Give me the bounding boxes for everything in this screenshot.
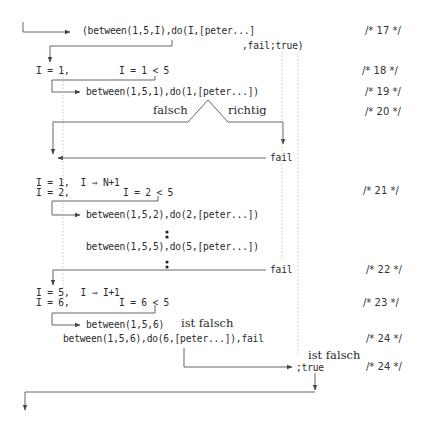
fail-22: fail	[270, 265, 292, 275]
assign-i2: I = 2,	[36, 188, 69, 198]
comment-18: /* 18 */	[362, 66, 398, 76]
ist-falsch-label-1: ist falsch	[181, 318, 233, 330]
branch-true-label: richtig	[228, 105, 267, 117]
assign-i1: I = 1,	[36, 66, 69, 76]
fail-20: fail	[270, 153, 292, 163]
call-between-1: between(1,5,1),do(1,[peter...])	[86, 87, 259, 97]
semicolon-true: ;true	[296, 363, 324, 373]
ist-falsch-label-2: ist falsch	[308, 350, 360, 362]
comment-22: /* 22 */	[366, 265, 402, 275]
test-1-lt-5: I = 1 < 5	[119, 66, 169, 76]
goal-full-24: between(1,5,6),do(6,[peter...]),fail	[63, 334, 264, 344]
branch-false-label: falsch	[153, 105, 188, 117]
comment-21: /* 21 */	[363, 186, 399, 196]
goal-tail-17: ,fail;true)	[242, 41, 303, 51]
comment-24a: /* 24 */	[366, 334, 402, 344]
assign-i6: I = 6,	[36, 298, 69, 308]
comment-17: /* 17 */	[365, 26, 401, 36]
comment-24b: /* 24 */	[366, 362, 402, 372]
call-between-5: between(1,5,5),do(5,[peter...])	[86, 242, 259, 252]
comment-20: /* 20 */	[365, 107, 401, 117]
execution-trace-diagram: (between(1,5,I),do(I,[peter...] ,fail;tr…	[0, 0, 425, 435]
goal-call-17: (between(1,5,I),do(I,[peter...]	[82, 26, 255, 36]
call-between-6: between(1,5,6)	[86, 320, 164, 330]
call-between-2: between(1,5,2),do(2,[peter...])	[86, 210, 259, 220]
comment-19: /* 19 */	[365, 87, 401, 97]
test-6-lt-5: I = 6 < 5	[119, 298, 169, 308]
test-2-lt-5: I = 2 < 5	[123, 188, 173, 198]
comment-23: /* 23 */	[363, 298, 399, 308]
